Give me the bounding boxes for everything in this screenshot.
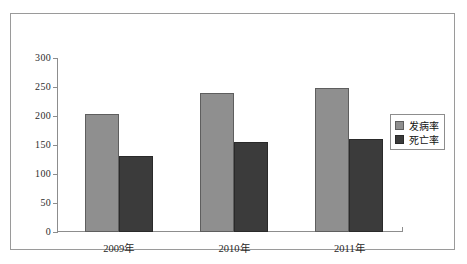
legend-item-mortality: 死亡率: [395, 132, 439, 146]
legend-swatch-incidence-icon: [395, 121, 404, 130]
chart-legend: 发病率 死亡率: [390, 114, 445, 150]
y-tick-mark: [53, 58, 58, 59]
y-tick-mark: [53, 232, 58, 233]
y-tick-label: 0: [11, 226, 51, 237]
y-tick-label: 50: [11, 197, 51, 208]
bar-mortality: [234, 142, 268, 232]
y-tick-mark: [53, 174, 58, 175]
legend-item-incidence: 发病率: [395, 118, 439, 132]
y-tick-label: 250: [11, 81, 51, 92]
y-tick-mark: [53, 145, 58, 146]
y-tick-mark: [53, 203, 58, 204]
legend-label-mortality: 死亡率: [409, 132, 439, 147]
legend-swatch-mortality-icon: [395, 135, 404, 144]
plot-area: 050100150200250300 2009年2010年2011年: [57, 58, 403, 232]
y-tick-label: 200: [11, 110, 51, 121]
y-tick-label: 100: [11, 168, 51, 179]
chart-frame: 050100150200250300 2009年2010年2011年 发病率 死…: [10, 13, 455, 250]
x-axis-end-tick: [402, 227, 403, 232]
bar-incidence: [85, 114, 119, 232]
x-tick-label: 2010年: [180, 240, 288, 255]
y-tick-label: 300: [11, 52, 51, 63]
x-tick-label: 2011年: [295, 240, 403, 255]
y-tick-mark: [53, 87, 58, 88]
bar-incidence: [315, 88, 349, 232]
legend-label-incidence: 发病率: [409, 118, 439, 133]
bar-incidence: [200, 93, 234, 232]
y-tick-label: 150: [11, 139, 51, 150]
y-tick-mark: [53, 116, 58, 117]
x-tick-label: 2009年: [65, 240, 173, 255]
bar-mortality: [349, 139, 383, 232]
bar-mortality: [119, 156, 153, 232]
